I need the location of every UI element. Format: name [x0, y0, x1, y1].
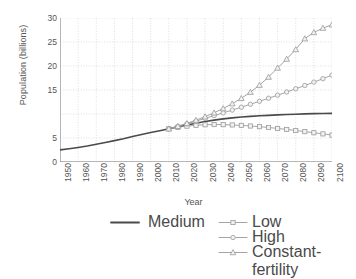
x-tick-label: 2050: [245, 163, 254, 193]
x-tick-label: 1970: [100, 163, 109, 193]
legend-swatch-constant-fertility: [218, 244, 248, 262]
y-tick-label: 20: [35, 62, 57, 71]
legend-swatch-medium: [110, 214, 140, 232]
series-high: [167, 73, 332, 131]
x-axis-tick-labels: 1950196019701980199020002010202020302040…: [60, 164, 332, 196]
x-tick-label: 2020: [190, 163, 199, 193]
x-tick-label: 1960: [82, 163, 91, 193]
x-tick-label: 1980: [118, 163, 127, 193]
legend-label-medium: Medium: [148, 213, 205, 231]
x-tick-label: 2030: [209, 163, 218, 193]
x-tick-label: 2070: [281, 163, 290, 193]
x-tick-label: 2080: [299, 163, 308, 193]
y-tick-label: 30: [35, 14, 57, 23]
x-tick-label: 2100: [336, 163, 345, 193]
x-axis-label: Year: [55, 197, 332, 207]
y-tick-label: 25: [35, 38, 57, 47]
legend-label-constant-fertility: Constant-fertility: [252, 243, 356, 279]
x-tick-label: 2010: [172, 163, 181, 193]
chart-legend: MediumLowHighConstant-fertility: [0, 210, 356, 257]
y-tick-label: 5: [35, 134, 57, 143]
x-tick-label: 2040: [227, 163, 236, 193]
y-axis-label: Population (billions): [18, 0, 28, 135]
plot-area: [60, 18, 332, 162]
y-tick-label: 15: [35, 86, 57, 95]
x-tick-label: 2090: [317, 163, 326, 193]
plot-svg: [60, 18, 332, 162]
x-tick-label: 2060: [263, 163, 272, 193]
x-tick-label: 1950: [64, 163, 73, 193]
series-constant-fertility: [166, 22, 332, 131]
x-tick-label: 2000: [154, 163, 163, 193]
x-tick-label: 1990: [136, 163, 145, 193]
y-tick-label: 0: [35, 158, 57, 167]
y-axis-tick-labels: 0515202530: [33, 18, 57, 162]
